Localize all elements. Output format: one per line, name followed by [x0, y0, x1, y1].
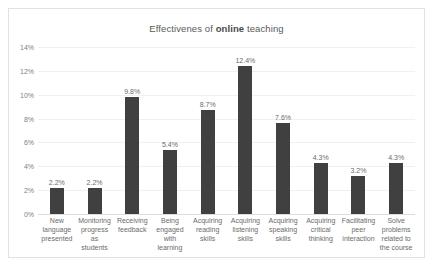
x-axis-label: Acquiring speaking skills	[264, 216, 302, 243]
bar-slot: 9.8%	[113, 47, 151, 214]
x-axis-label: Acquiring reading skills	[189, 216, 227, 243]
bar-value-label: 2.2%	[87, 179, 103, 186]
x-axis-label: Acquiring listening skills	[227, 216, 265, 243]
bar[interactable]: 4.3%	[314, 163, 328, 214]
y-axis-tick-label: 4%	[24, 163, 34, 170]
bar-slot: 7.6%	[264, 47, 302, 214]
x-axis-label: New language presented	[38, 216, 76, 243]
x-axis-category-labels: New language presentedMonitoring progres…	[38, 216, 415, 252]
bar-slot: 12.4%	[227, 47, 265, 214]
bar-value-label: 4.3%	[313, 154, 329, 161]
bar[interactable]: 2.2%	[88, 188, 102, 214]
x-axis-label: Receiving feedback	[113, 216, 151, 234]
x-axis-label: Being engaged with learning	[151, 216, 189, 252]
plot-area: 14%12%10%8%6%4%2%0% 2.2%2.2%9.8%5.4%8.7%…	[38, 47, 415, 214]
chart-title: Effectivenes of online teaching	[9, 23, 424, 34]
bar-value-label: 2.2%	[49, 179, 65, 186]
y-axis-tick-label: 8%	[24, 115, 34, 122]
bar-slot: 2.2%	[76, 47, 114, 214]
bar-slot: 4.3%	[377, 47, 415, 214]
y-axis-tick-label: 10%	[20, 91, 34, 98]
bar-slot: 2.2%	[38, 47, 76, 214]
x-axis-label: Monitoring progress as students	[76, 216, 114, 252]
bar[interactable]: 8.7%	[201, 110, 215, 214]
bar[interactable]: 3.2%	[351, 176, 365, 214]
x-axis-label: Acquiring critical thinking	[302, 216, 340, 243]
chart-title-emphasis: online	[216, 23, 245, 34]
bar-value-label: 9.8%	[124, 88, 140, 95]
y-axis-tick-label: 2%	[24, 187, 34, 194]
bar[interactable]: 5.4%	[163, 150, 177, 214]
bar-slot: 5.4%	[151, 47, 189, 214]
bar-slot: 3.2%	[340, 47, 378, 214]
chart-title-prefix: Effectivenes of	[149, 23, 215, 34]
y-axis-tick-label: 0%	[24, 211, 34, 218]
bar[interactable]: 7.6%	[276, 123, 290, 214]
bar-value-label: 3.2%	[350, 167, 366, 174]
bar[interactable]: 2.2%	[50, 188, 64, 214]
bars-layer: 2.2%2.2%9.8%5.4%8.7%12.4%7.6%4.3%3.2%4.3…	[38, 47, 415, 214]
x-axis-label: Solve problems related to the course	[377, 216, 415, 252]
bar[interactable]: 9.8%	[125, 97, 139, 214]
y-axis-tick-label: 14%	[20, 44, 34, 51]
bar-slot: 8.7%	[189, 47, 227, 214]
bar-value-label: 5.4%	[162, 141, 178, 148]
chart-title-suffix: teaching	[244, 23, 283, 34]
y-axis-tick-label: 6%	[24, 139, 34, 146]
bar[interactable]: 12.4%	[238, 66, 252, 214]
bar-value-label: 4.3%	[388, 154, 404, 161]
bar-value-label: 12.4%	[235, 57, 255, 64]
axis-baseline: 0%	[38, 214, 415, 215]
x-axis-label: Facilitating peer interaction	[340, 216, 378, 243]
y-axis-tick-label: 12%	[20, 67, 34, 74]
bar-value-label: 7.6%	[275, 114, 291, 121]
bar-value-label: 8.7%	[200, 101, 216, 108]
chart-container: Effectivenes of online teaching 14%12%10…	[8, 8, 425, 258]
bar[interactable]: 4.3%	[389, 163, 403, 214]
bar-slot: 4.3%	[302, 47, 340, 214]
